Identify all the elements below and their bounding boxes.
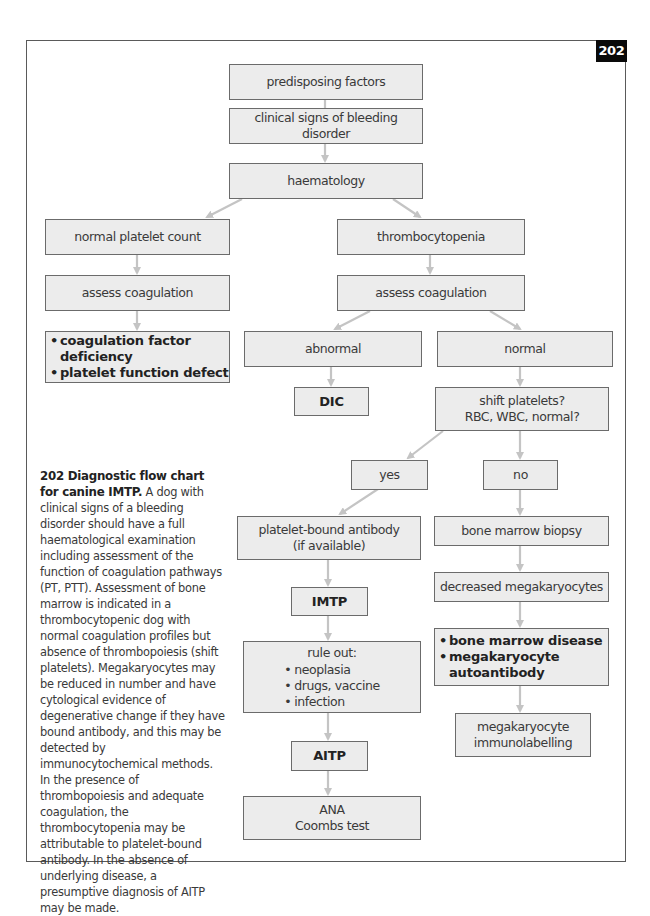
arrow-diagonal-icon <box>340 489 378 514</box>
bullet-icon: • <box>284 662 294 678</box>
node-rule-out: rule out: •neoplasia •drugs, vaccine •in… <box>243 641 421 713</box>
node-megakaryocyte-immunolabelling: megakaryocyteimmunolabelling <box>455 713 591 757</box>
node-label: Coombs test <box>295 818 369 834</box>
node-label: coagulation factor deficiency <box>60 333 229 365</box>
node-label: clinical signs of bleeding disorder <box>230 110 422 142</box>
node-label: RBC, WBC, normal? <box>465 409 580 425</box>
node-label: predisposing factors <box>267 74 386 90</box>
node-label: bone marrow disease <box>449 633 602 649</box>
node-label: haematology <box>287 173 365 189</box>
node-label: normal platelet count <box>74 229 200 245</box>
node-label: megakaryocyte <box>474 719 572 735</box>
node-label: platelet function defect <box>60 365 229 381</box>
node-normal: normal <box>437 331 613 367</box>
node-thrombocytopenia: thrombocytopenia <box>337 219 525 255</box>
node-ana-coombs: ANACoombs test <box>243 796 421 840</box>
node-abnormal: abnormal <box>244 331 422 367</box>
node-label: immunolabelling <box>474 735 572 751</box>
node-label: yes <box>379 467 399 483</box>
bullet-icon: • <box>284 678 294 694</box>
node-label: autoantibody <box>449 665 545 681</box>
node-yes: yes <box>351 460 428 490</box>
node-label: megakaryocyte <box>449 649 559 665</box>
node-label: platelet-bound antibody <box>258 522 399 538</box>
arrow-diagonal-icon <box>408 431 443 458</box>
node-dic: DIC <box>294 387 369 416</box>
node-predisposing-factors: predisposing factors <box>229 64 423 100</box>
node-label: assess coagulation <box>82 285 193 301</box>
arrow-diagonal-icon <box>335 311 370 329</box>
node-label: DIC <box>319 394 344 410</box>
arrow-down-icon <box>490 311 520 329</box>
node-label: normal <box>504 341 545 357</box>
bullet-icon: • <box>50 333 60 365</box>
node-imtp: IMTP <box>291 587 368 616</box>
node-label: bone marrow biopsy <box>461 523 581 539</box>
node-label: infection <box>294 694 345 710</box>
node-label: (if available) <box>258 538 399 554</box>
node-normal-platelet-count: normal platelet count <box>45 219 230 255</box>
arrow-diagonal-icon <box>207 199 242 217</box>
node-assess-coagulation-right: assess coagulation <box>337 275 525 311</box>
node-no: no <box>483 460 558 490</box>
node-decreased-megakaryocytes: decreased megakaryocytes <box>434 572 609 602</box>
bullet-icon: • <box>50 365 60 381</box>
node-label: shift platelets? <box>465 393 580 409</box>
node-label: thrombocytopenia <box>377 229 485 245</box>
node-label: assess coagulation <box>375 285 486 301</box>
node-bone-marrow-results: •bone marrow disease •megakaryocyte auto… <box>434 628 609 686</box>
node-coagulation-results: •coagulation factor deficiency •platelet… <box>45 331 230 383</box>
node-label: IMTP <box>312 594 347 610</box>
node-label: decreased megakaryocytes <box>440 579 603 595</box>
bullet-icon: • <box>439 633 449 649</box>
node-bone-marrow-biopsy: bone marrow biopsy <box>434 516 609 546</box>
node-clinical-signs: clinical signs of bleeding disorder <box>229 108 423 144</box>
node-haematology: haematology <box>229 163 423 199</box>
node-label: abnormal <box>305 341 361 357</box>
node-aitp: AITP <box>291 741 368 771</box>
node-assess-coagulation-left: assess coagulation <box>45 275 230 311</box>
node-shift-platelets: shift platelets?RBC, WBC, normal? <box>435 387 609 431</box>
bullet-icon: • <box>284 694 294 710</box>
figure-caption: 202 Diagnostic flow chart for canine IMT… <box>40 468 226 916</box>
caption-body: A dog with clinical signs of a bleeding … <box>40 485 225 915</box>
node-label: neoplasia <box>294 662 350 678</box>
node-label: rule out: <box>307 645 356 661</box>
node-platelet-bound-antibody: platelet-bound antibody(if available) <box>237 516 421 560</box>
node-label: no <box>513 467 528 483</box>
bullet-icon: • <box>439 649 449 665</box>
node-label: ANA <box>295 802 369 818</box>
node-label: AITP <box>313 748 346 764</box>
arrow-diagonal-icon <box>393 199 420 217</box>
node-label: drugs, vaccine <box>294 678 380 694</box>
